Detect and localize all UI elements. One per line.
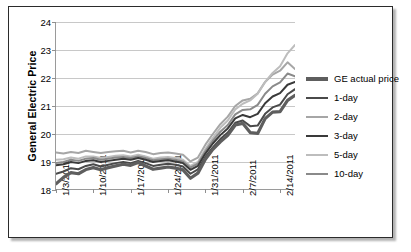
- legend-swatch: [306, 135, 328, 137]
- legend-swatch: [306, 97, 328, 99]
- chart-legend: GE actual price1-day2-day3-day5-day10-da…: [306, 69, 398, 183]
- legend-swatch: [306, 77, 328, 81]
- legend-label: 3-day: [334, 131, 358, 141]
- legend-item[interactable]: 2-day: [306, 107, 398, 126]
- y-tick-label: 23: [27, 45, 51, 56]
- series-line: [56, 45, 295, 166]
- legend-label: GE actual price: [334, 74, 399, 84]
- series-line: [56, 95, 295, 183]
- y-tick-label: 20: [27, 129, 51, 140]
- legend-swatch: [306, 154, 328, 156]
- legend-swatch: [306, 116, 328, 118]
- y-tick-label: 24: [27, 17, 51, 28]
- legend-item[interactable]: 5-day: [306, 145, 398, 164]
- chart-figure: General Electric Price 18192021222324 1/…: [0, 0, 411, 252]
- series-lines: [56, 22, 295, 190]
- plot-area: 18192021222324 1/3/20111/10/20111/17/201…: [55, 22, 294, 190]
- y-tick-label: 19: [27, 157, 51, 168]
- chart-frame: General Electric Price 18192021222324 1/…: [8, 6, 393, 238]
- legend-item[interactable]: GE actual price: [306, 69, 398, 88]
- legend-label: 10-day: [334, 169, 363, 179]
- legend-label: 1-day: [334, 93, 358, 103]
- legend-item[interactable]: 10-day: [306, 164, 398, 183]
- legend-item[interactable]: 3-day: [306, 126, 398, 145]
- legend-label: 2-day: [334, 112, 358, 122]
- y-tick-label: 22: [27, 73, 51, 84]
- legend-item[interactable]: 1-day: [306, 88, 398, 107]
- series-svg: [56, 22, 295, 190]
- y-tick-label: 18: [27, 185, 51, 196]
- legend-label: 5-day: [334, 150, 358, 160]
- y-tick-label: 21: [27, 101, 51, 112]
- legend-swatch: [306, 173, 328, 175]
